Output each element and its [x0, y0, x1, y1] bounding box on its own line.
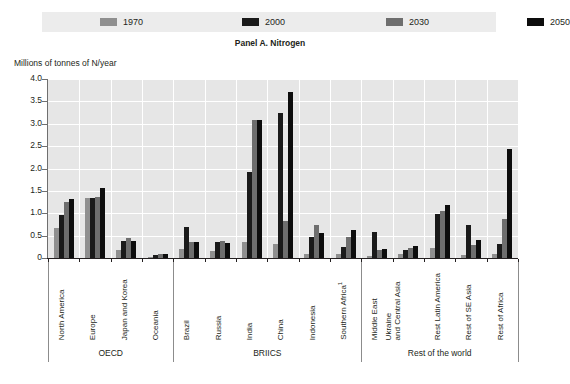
bar-2050	[445, 205, 450, 258]
legend-item-2050: 2050	[527, 18, 570, 27]
category-label: China	[276, 319, 285, 340]
group-label-oecd: OECD	[48, 348, 173, 358]
y-axis-tick-label: 1.0	[2, 208, 42, 217]
category-label-slot: Ukraineand Central Asia	[393, 262, 424, 340]
y-axis-tick	[42, 124, 47, 125]
legend-swatch-2000	[242, 18, 259, 26]
bar-2050	[413, 246, 418, 258]
category-labels: North AmericaEuropeJapan and KoreaOceani…	[48, 262, 518, 340]
y-axis-tick	[42, 101, 47, 102]
category-label-slot: Oceania	[142, 262, 173, 340]
category-label-slot: Rest of Africa	[487, 262, 518, 340]
bar-group	[236, 79, 267, 258]
y-axis-tick-label: 3.5	[2, 96, 42, 105]
category-label: Japan and Korea	[120, 279, 129, 340]
category-label-slot: Southern Africa1	[330, 262, 361, 340]
bar-group	[48, 79, 79, 258]
bar-series-container	[48, 79, 518, 258]
bar-2050	[100, 188, 105, 258]
category-label-slot: Rest Latin America	[424, 262, 455, 340]
category-label: Rest Latin America	[433, 273, 442, 340]
bar-group	[455, 79, 486, 258]
bar-2050	[476, 240, 481, 258]
group-labels: OECDBRIICSRest of the world	[48, 348, 518, 364]
category-label: Rest of Africa	[496, 292, 505, 340]
legend-label-2050: 2050	[550, 18, 570, 27]
group-label-rest-of-the-world: Rest of the world	[361, 348, 518, 358]
category-label: Oceania	[151, 310, 160, 340]
y-axis-tick-label: 3.0	[2, 119, 42, 128]
y-axis-tick-label: 2.5	[2, 141, 42, 150]
y-axis-tick	[42, 169, 47, 170]
y-axis-tick-label: 2.0	[2, 164, 42, 173]
category-label-slot: Japan and Korea	[111, 262, 142, 340]
bar-group	[173, 79, 204, 258]
bar-2050	[69, 199, 74, 258]
category-label: Brazil	[182, 320, 191, 340]
y-axis-tick	[42, 79, 47, 80]
group-label-briics: BRIICS	[173, 348, 361, 358]
legend-label-2000: 2000	[265, 18, 285, 27]
category-label-slot: India	[236, 262, 267, 340]
bar-group	[142, 79, 173, 258]
chart-legend: 1970 2000 2030 2050	[42, 12, 496, 32]
panel-title: Panel A. Nitrogen	[0, 38, 540, 48]
group-separator	[518, 262, 519, 362]
category-label: Rest of SE Asia	[464, 284, 473, 340]
bar-2050	[257, 120, 262, 258]
y-axis-tick-label: 4.0	[2, 74, 42, 83]
category-label-slot: Rest of SE Asia	[455, 262, 486, 340]
y-axis-tick	[42, 213, 47, 214]
bar-2050	[507, 149, 512, 258]
bar-2050	[382, 249, 387, 258]
category-label: Europe	[88, 314, 97, 340]
category-label: Russia	[214, 316, 223, 340]
bar-group	[330, 79, 361, 258]
category-label: North America	[57, 289, 66, 340]
bar-group	[361, 79, 392, 258]
y-axis-tick	[42, 191, 47, 192]
legend-label-2030: 2030	[409, 18, 429, 27]
bar-group	[424, 79, 455, 258]
category-label: India	[245, 323, 254, 340]
category-label: Middle East	[370, 298, 379, 340]
category-label-slot: North America	[48, 262, 79, 340]
y-axis-tick	[42, 236, 47, 237]
bar-2050	[194, 242, 199, 258]
legend-item-1970: 1970	[100, 18, 143, 27]
category-label: Ukraineand Central Asia	[384, 281, 402, 340]
group-separator	[173, 262, 174, 362]
category-label-slot: China	[267, 262, 298, 340]
y-axis-tick-label: 0.5	[2, 231, 42, 240]
category-label-slot: Brazil	[173, 262, 204, 340]
legend-swatch-1970	[100, 18, 117, 26]
y-axis-tick	[42, 258, 47, 259]
group-separator	[361, 262, 362, 362]
bar-group	[267, 79, 298, 258]
y-axis-tick	[42, 146, 47, 147]
bar-2050	[351, 230, 356, 258]
x-axis-line	[47, 258, 518, 259]
category-label: Southern Africa1	[337, 282, 348, 340]
bar-2050	[131, 241, 136, 258]
bar-group	[299, 79, 330, 258]
bar-group	[393, 79, 424, 258]
category-label-slot: Russia	[205, 262, 236, 340]
legend-swatch-2050	[527, 18, 544, 26]
group-separator	[48, 262, 49, 362]
legend-item-2030: 2030	[386, 18, 429, 27]
legend-swatch-2030	[386, 18, 403, 26]
category-label-slot: Europe	[79, 262, 110, 340]
bar-2050	[319, 233, 324, 259]
bar-2050	[225, 243, 230, 258]
bar-group	[111, 79, 142, 258]
legend-label-1970: 1970	[123, 18, 143, 27]
y-axis-tick-label: 1.5	[2, 186, 42, 195]
bar-group	[487, 79, 518, 258]
category-label: Indonesia	[308, 305, 317, 340]
y-axis-tick-label: 0	[2, 253, 42, 262]
bar-group	[205, 79, 236, 258]
y-axis-labels: 4.03.53.02.52.01.51.00.50	[0, 0, 42, 384]
legend-item-2000: 2000	[242, 18, 285, 27]
bar-group	[79, 79, 110, 258]
